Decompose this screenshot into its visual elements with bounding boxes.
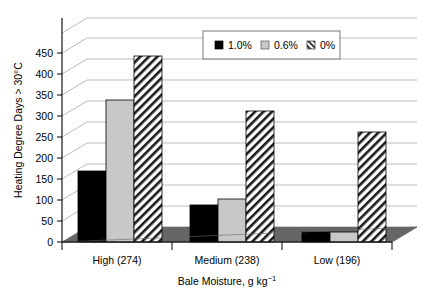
x-axis-category-labels: High (274) Medium (238) Low (196) (92, 254, 360, 266)
bar-medium-0pct[interactable] (246, 111, 274, 242)
x-label-low: Low (196) (314, 254, 361, 266)
x-axis-title-main: Bale Moisture, g kg (178, 275, 268, 287)
y-tick-300: 300 (35, 110, 53, 122)
bar-high-0pct[interactable] (134, 56, 162, 242)
bar-low-0.6pct[interactable] (330, 232, 358, 242)
y-tick-200: 200 (35, 152, 53, 164)
bar-low-0pct[interactable] (358, 132, 386, 242)
chart-container: 450 400 350 300 250 200 150 100 50 0 Hea… (0, 0, 423, 301)
y-tick-0: 0 (47, 236, 53, 248)
legend-label-1.0pct: 1.0% (228, 39, 252, 51)
y-tick-150: 150 (35, 173, 53, 185)
y-axis-title: Heating Degree Days > 30°C (12, 62, 24, 198)
bar-medium-0.6pct[interactable] (218, 199, 246, 242)
y-tick-350: 350 (35, 89, 53, 101)
bar-low-1.0pct[interactable] (302, 232, 330, 242)
y-tick-50: 50 (41, 215, 53, 227)
x-label-medium: Medium (238) (195, 254, 260, 266)
y-tick-400: 400 (35, 68, 53, 80)
bar-high-0.6pct[interactable] (106, 100, 134, 242)
y-tick-100: 100 (35, 194, 53, 206)
x-axis-title: Bale Moisture, g kg−1 (178, 274, 276, 287)
legend: 1.0% 0.6% 0% (203, 31, 340, 59)
legend-swatch-1.0pct (215, 41, 223, 49)
y-tick-450: 450 (35, 47, 53, 59)
legend-label-0.6pct: 0.6% (274, 39, 298, 51)
bar-chart: 450 400 350 300 250 200 150 100 50 0 Hea… (0, 0, 423, 301)
x-label-high: High (274) (92, 254, 141, 266)
legend-swatch-0.6pct (261, 41, 269, 49)
y-tick-250: 250 (35, 131, 53, 143)
legend-label-0pct: 0% (320, 39, 335, 51)
legend-swatch-0pct (307, 41, 315, 49)
x-axis-title-superscript: −1 (268, 274, 277, 283)
bar-high-1.0pct[interactable] (78, 171, 106, 242)
